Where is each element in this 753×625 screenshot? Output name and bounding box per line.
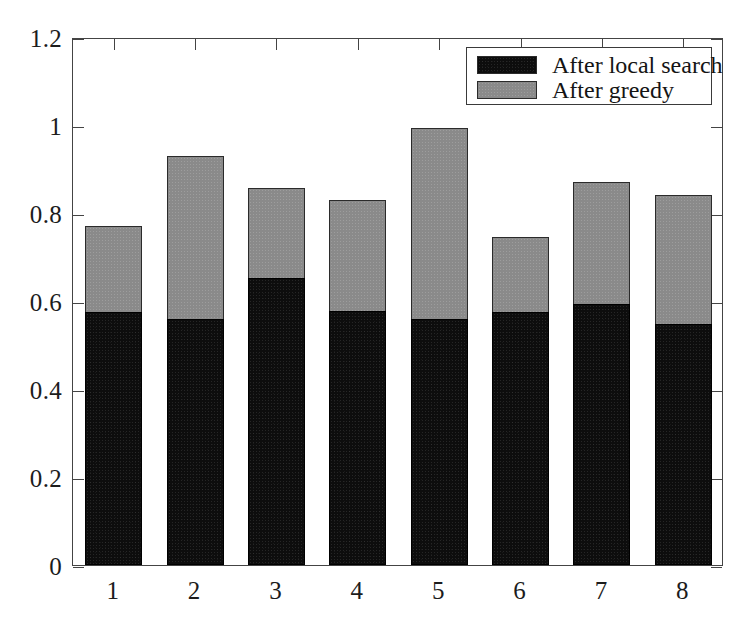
bar-segment-after-local-search bbox=[655, 324, 712, 565]
x-tick-label: 7 bbox=[571, 578, 631, 603]
bar-group bbox=[167, 37, 224, 565]
legend-swatch-after-greedy bbox=[477, 81, 537, 99]
x-tick-label: 5 bbox=[408, 578, 468, 603]
bar-segment-after-local-search bbox=[329, 311, 386, 565]
y-tick-mark bbox=[73, 127, 84, 128]
bar-segment-after-local-search bbox=[492, 312, 549, 565]
y-tick-mark bbox=[73, 391, 84, 392]
bar-segment-after-local-search bbox=[167, 319, 224, 565]
x-tick-label: 1 bbox=[83, 578, 143, 603]
bar-segment-after-local-search bbox=[248, 278, 305, 565]
legend-swatch-after-local-search bbox=[477, 56, 537, 74]
y-tick-label: 1 bbox=[4, 114, 62, 139]
y-tick-mark bbox=[73, 303, 84, 304]
y-tick-mark bbox=[711, 567, 722, 568]
bar-segment-after-local-search bbox=[85, 312, 142, 565]
x-tick-label: 6 bbox=[490, 578, 550, 603]
bar-group bbox=[248, 37, 305, 565]
y-tick-label: 0.4 bbox=[4, 378, 62, 403]
y-tick-mark bbox=[711, 39, 722, 40]
legend-item-after-local-search: After local search bbox=[467, 52, 711, 77]
bar-group bbox=[492, 37, 549, 565]
bar-group bbox=[85, 37, 142, 565]
y-tick-mark bbox=[73, 479, 84, 480]
y-tick-mark bbox=[711, 479, 722, 480]
y-tick-label: 1.2 bbox=[4, 26, 62, 51]
bar-segment-after-local-search bbox=[411, 319, 468, 565]
y-tick-mark bbox=[73, 567, 84, 568]
y-tick-mark bbox=[711, 215, 722, 216]
y-tick-label: 0.2 bbox=[4, 466, 62, 491]
x-tick-label: 3 bbox=[245, 578, 305, 603]
bar-group bbox=[329, 37, 386, 565]
bar-group bbox=[655, 37, 712, 565]
x-tick-label: 4 bbox=[327, 578, 387, 603]
x-tick-label: 2 bbox=[164, 578, 224, 603]
y-tick-mark bbox=[711, 391, 722, 392]
y-tick-label: 0.8 bbox=[4, 202, 62, 227]
x-tick-label: 8 bbox=[652, 578, 712, 603]
y-tick-label: 0.6 bbox=[4, 290, 62, 315]
y-tick-mark bbox=[73, 215, 84, 216]
bar-segment-after-local-search bbox=[573, 304, 630, 565]
y-tick-label: 0 bbox=[4, 554, 62, 579]
y-tick-mark bbox=[711, 303, 722, 304]
y-tick-mark bbox=[73, 39, 84, 40]
legend: After local search After greedy bbox=[466, 47, 712, 105]
plot-frame bbox=[72, 38, 723, 566]
bar-chart-figure: 00.20.40.60.811.2 12345678 After local s… bbox=[0, 0, 753, 625]
bar-group bbox=[573, 37, 630, 565]
bar-group bbox=[411, 37, 468, 565]
legend-label-after-greedy: After greedy bbox=[552, 78, 674, 102]
legend-item-after-greedy: After greedy bbox=[467, 77, 711, 102]
y-tick-mark bbox=[711, 127, 722, 128]
legend-label-after-local-search: After local search bbox=[552, 53, 723, 77]
